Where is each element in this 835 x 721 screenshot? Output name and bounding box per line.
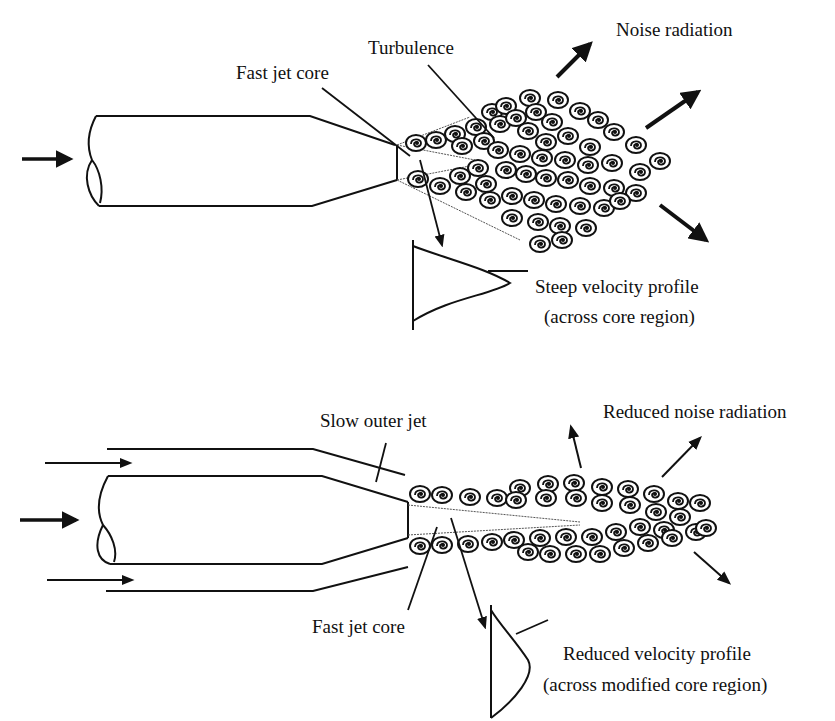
core-nozzle — [97, 476, 408, 564]
label-fast-jet-core-top: Fast jet core — [236, 62, 329, 84]
velocity-profile-arrow — [451, 518, 485, 627]
slow-outer-jet-leader — [376, 443, 386, 482]
velocity-profile-leader — [516, 620, 548, 634]
jet-noise-diagram — [0, 0, 835, 721]
label-across-modified-core-region: (across modified core region) — [543, 674, 767, 696]
nozzle — [87, 116, 397, 206]
bypass-duct — [106, 449, 408, 591]
label-turbulence: Turbulence — [368, 37, 454, 59]
fast-jet-core-leader — [322, 88, 410, 156]
label-reduced-velocity-profile: Reduced velocity profile — [563, 643, 751, 665]
label-across-core-region: (across core region) — [544, 306, 695, 328]
velocity-profile-arrow — [420, 160, 442, 245]
reduced-turbulence-vortices — [410, 475, 716, 562]
label-slow-outer-jet: Slow outer jet — [320, 410, 427, 432]
label-noise-radiation: Noise radiation — [616, 19, 733, 41]
reduced-velocity-profile — [491, 605, 530, 718]
steep-velocity-profile — [413, 240, 510, 330]
label-reduced-noise-radiation: Reduced noise radiation — [603, 401, 787, 423]
label-fast-jet-core-bottom: Fast jet core — [312, 616, 405, 638]
label-steep-velocity-profile: Steep velocity profile — [535, 276, 699, 298]
